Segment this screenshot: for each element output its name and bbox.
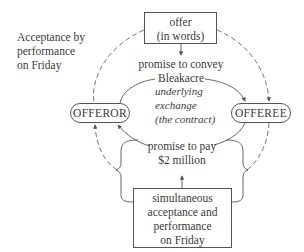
promise-pay-line: promise to pay	[135, 139, 229, 153]
contract-line: (the contract)	[155, 112, 215, 126]
label-line: on Friday	[17, 58, 85, 72]
label-line: performance	[17, 44, 85, 58]
dashed-brace-to-offeror	[95, 125, 117, 170]
promise-to-pay: promise to pay $2 million	[135, 139, 229, 167]
in-words-text: (in words)	[145, 29, 216, 43]
underlying-line: underlying	[155, 84, 215, 98]
acceptance-line: acceptance and	[134, 205, 231, 219]
acceptance-box: simultaneous acceptance and performance …	[133, 188, 232, 248]
amount-line: $2 million	[135, 153, 229, 167]
promise-convey-line: promise to convey	[130, 57, 232, 71]
label-line: Acceptance by	[17, 30, 85, 44]
promise-to-convey: promise to convey Bleakacre	[130, 57, 232, 85]
offeree-node: OFFEREE	[231, 103, 291, 123]
acceptance-line: on Friday	[134, 233, 231, 247]
bleakacre-line: Bleakacre	[130, 71, 232, 85]
acceptance-line: performance	[134, 219, 231, 233]
underlying-exchange: underlying exchange (the contract)	[155, 84, 215, 126]
offeree-label: OFFEREE	[235, 107, 287, 119]
offer-box: offer (in words)	[144, 12, 217, 44]
offer-text: offer	[145, 15, 216, 29]
offeror-node: OFFEROR	[70, 103, 130, 123]
offeror-label: OFFEROR	[73, 107, 127, 119]
acceptance-by-performance-label: Acceptance by performance on Friday	[17, 30, 85, 72]
exchange-line: exchange	[155, 98, 215, 112]
acceptance-line: simultaneous	[134, 191, 231, 205]
dashed-offeree-to-brace	[247, 123, 269, 170]
